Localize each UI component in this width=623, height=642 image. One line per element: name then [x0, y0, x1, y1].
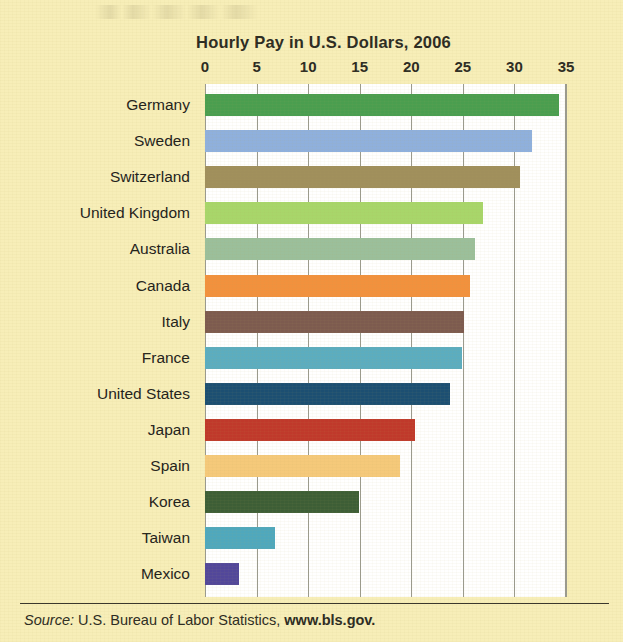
x-tick-label-30: 30 — [506, 58, 523, 75]
page-bleed-artifact — [95, 5, 285, 19]
category-label-taiwan: Taiwan — [142, 527, 190, 549]
bar-mexico — [205, 563, 239, 585]
category-label-canada: Canada — [136, 275, 190, 297]
source-url[interactable]: www.bls.gov. — [284, 612, 375, 628]
bar-canada — [205, 275, 470, 297]
category-label-mexico: Mexico — [141, 563, 190, 585]
category-label-korea: Korea — [149, 491, 190, 513]
category-label-australia: Australia — [130, 238, 190, 260]
x-tick-label-5: 5 — [252, 58, 260, 75]
footer-divider — [20, 603, 609, 604]
y-axis-category-labels: GermanySwedenSwitzerlandUnited KingdomAu… — [0, 84, 198, 597]
bar-germany — [205, 94, 559, 116]
chart-title: Hourly Pay in U.S. Dollars, 2006 — [0, 33, 623, 52]
category-label-germany: Germany — [126, 94, 190, 116]
bar-series — [205, 84, 566, 597]
category-label-japan: Japan — [148, 419, 190, 441]
bar-sweden — [205, 130, 532, 152]
bar-japan — [205, 419, 415, 441]
bar-australia — [205, 238, 475, 260]
x-tick-label-0: 0 — [201, 58, 209, 75]
x-tick-label-20: 20 — [403, 58, 420, 75]
x-axis-tick-labels: 05101520253035 — [0, 58, 623, 80]
category-label-italy: Italy — [162, 311, 190, 333]
x-tick-label-25: 25 — [455, 58, 472, 75]
bar-united-states — [205, 383, 450, 405]
bar-italy — [205, 311, 464, 333]
x-tick-label-15: 15 — [351, 58, 368, 75]
source-note: Source: U.S. Bureau of Labor Statistics,… — [24, 612, 375, 628]
bar-taiwan — [205, 527, 275, 549]
bar-korea — [205, 491, 359, 513]
plot-area — [205, 84, 566, 597]
bar-france — [205, 347, 462, 369]
category-label-spain: Spain — [150, 455, 190, 477]
category-label-sweden: Sweden — [134, 130, 190, 152]
category-label-united-states: United States — [97, 383, 190, 405]
category-label-france: France — [142, 347, 190, 369]
bar-united-kingdom — [205, 202, 483, 224]
bar-spain — [205, 455, 400, 477]
x-tick-label-10: 10 — [300, 58, 317, 75]
x-tick-label-35: 35 — [558, 58, 575, 75]
axis-right-edge — [565, 84, 566, 597]
gridline-35 — [566, 84, 567, 597]
category-label-switzerland: Switzerland — [110, 166, 190, 188]
bar-switzerland — [205, 166, 520, 188]
source-prefix: Source: — [24, 612, 74, 628]
category-label-united-kingdom: United Kingdom — [80, 202, 190, 224]
source-body: U.S. Bureau of Labor Statistics, — [78, 612, 280, 628]
